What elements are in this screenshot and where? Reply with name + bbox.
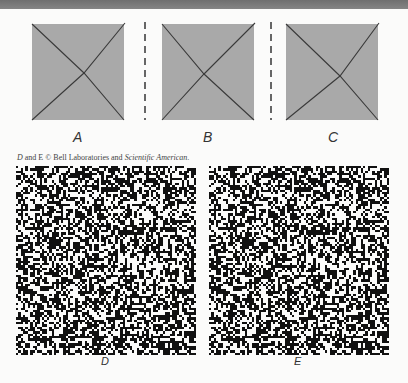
figure-b-square <box>162 24 254 120</box>
caption-and: and <box>23 153 39 162</box>
caption-period: . <box>187 153 189 162</box>
header-band <box>0 0 408 9</box>
dashed-separator-2 <box>270 22 272 120</box>
random-dot-stereogram-e <box>209 166 389 355</box>
figure-b-cross-lines <box>159 21 257 123</box>
caption-publication: Scientific American <box>125 153 188 162</box>
figure-caption: D and E © Bell Laboratories and Scientif… <box>17 153 189 162</box>
figure-label-c: C <box>328 129 338 145</box>
stereogram-label-d: D <box>101 355 109 367</box>
figure-a-square <box>32 24 124 120</box>
figure-c-square <box>286 24 378 120</box>
random-dot-stereogram-d <box>16 166 196 355</box>
figure-label-b: B <box>203 129 212 145</box>
figure-label-a: A <box>73 129 82 145</box>
stereogram-label-e: E <box>294 355 301 367</box>
figure-c-cross-lines <box>283 21 381 123</box>
caption-copyright: © Bell Laboratories and <box>43 153 124 162</box>
dashed-separator-1 <box>144 22 146 120</box>
figure-a-cross-lines <box>29 21 127 123</box>
